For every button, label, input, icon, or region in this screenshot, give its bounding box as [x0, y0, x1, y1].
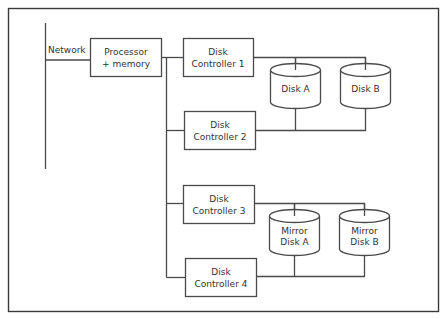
disk-a-cylinder: Disk A [271, 58, 321, 109]
controller-4-label-line2: Controller 4 [195, 279, 248, 289]
processor-memory-box: Processor + memory [91, 39, 162, 77]
disk-b-label: Disk B [351, 84, 379, 94]
processor-label-line1: Processor [104, 47, 148, 57]
mirror-disk-b-cylinder: Mirror Disk B [340, 204, 390, 256]
storage-architecture-diagram: Network Processor + memory Disk Controll… [0, 0, 448, 319]
mirror-disk-a-cylinder: Mirror Disk A [270, 204, 320, 256]
disk-controller-3: Disk Controller 3 [184, 186, 255, 224]
disk-controller-1: Disk Controller 1 [184, 39, 254, 77]
controller-4-label-line1: Disk [211, 267, 231, 277]
controller-3-label-line2: Controller 3 [193, 206, 246, 216]
controller-3-label-line1: Disk [209, 194, 229, 204]
processor-label-line2: + memory [102, 59, 151, 69]
disk-controller-4: Disk Controller 4 [186, 259, 257, 297]
controller-2-label-line2: Controller 2 [194, 132, 247, 142]
mirror-disk-b-label-line2: Disk B [350, 237, 378, 247]
mirror-disk-a-label-line2: Disk A [280, 237, 309, 247]
network-label: Network [48, 45, 86, 55]
network-bus: Network [46, 23, 91, 169]
disk-controller-2: Disk Controller 2 [185, 112, 256, 150]
controller-1-label-line2: Controller 1 [192, 59, 245, 69]
disk-a-label: Disk A [281, 84, 310, 94]
mirror-disk-a-label-line1: Mirror [281, 226, 308, 236]
disk-b-cylinder: Disk B [341, 58, 391, 109]
mirror-disk-b-label-line1: Mirror [351, 226, 378, 236]
controller-1-label-line1: Disk [208, 47, 228, 57]
controller-2-label-line1: Disk [210, 120, 230, 130]
